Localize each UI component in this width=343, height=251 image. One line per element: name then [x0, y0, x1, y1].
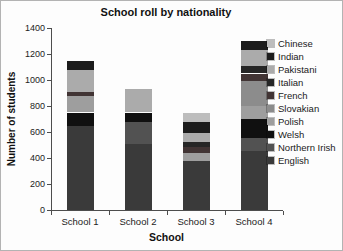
bar-segment — [241, 151, 268, 210]
legend-item: Polish — [267, 115, 336, 128]
legend-item: Chinese — [267, 37, 336, 50]
bar-segment — [67, 70, 94, 91]
legend-label: Polish — [278, 117, 304, 127]
y-tick-mark — [47, 132, 51, 133]
bar-segment — [67, 92, 94, 96]
bar-segment — [125, 89, 152, 112]
x-tick-mark — [109, 211, 110, 215]
legend-label: Italian — [278, 78, 303, 88]
legend-item: Italian — [267, 76, 336, 89]
legend-item: Northern Irish — [267, 141, 336, 154]
legend-swatch — [267, 79, 274, 86]
legend-item: English — [267, 154, 336, 167]
y-axis-line — [51, 28, 52, 211]
y-tick-label: 0 — [17, 206, 45, 215]
bar-segment — [67, 96, 94, 113]
x-category-label: School 1 — [51, 216, 109, 227]
x-category-label: School 2 — [109, 216, 167, 227]
y-tick-label: 400 — [17, 154, 45, 163]
legend-item: French — [267, 89, 336, 102]
y-tick-mark — [47, 106, 51, 107]
bar-segment — [241, 50, 268, 66]
bar-segment — [183, 133, 210, 142]
bar-segment — [125, 122, 152, 143]
bar-segment — [241, 81, 268, 106]
legend-swatch — [267, 53, 274, 60]
legend-swatch — [267, 66, 274, 73]
y-tick-label: 1400 — [17, 24, 45, 33]
x-tick-mark — [167, 211, 168, 215]
bar-segment — [183, 113, 210, 122]
legend-item: Welsh — [267, 128, 336, 141]
y-tick-mark — [47, 158, 51, 159]
bar-segment — [67, 113, 94, 126]
bar-segment — [183, 122, 210, 133]
bar-segment — [241, 41, 268, 50]
legend-swatch — [267, 92, 274, 99]
y-tick-label: 600 — [17, 128, 45, 137]
legend-item: Slovakian — [267, 102, 336, 115]
legend-swatch — [267, 131, 274, 138]
bar-segment — [67, 61, 94, 71]
legend-swatch — [267, 40, 274, 47]
bar-segment — [241, 119, 268, 138]
chart-title: School roll by nationality — [1, 6, 331, 18]
legend-label: Welsh — [278, 130, 304, 140]
y-tick-label: 1200 — [17, 50, 45, 59]
legend-swatch — [267, 157, 274, 164]
x-tick-mark — [283, 211, 284, 215]
y-tick-mark — [47, 28, 51, 29]
bar-segment — [183, 147, 210, 153]
y-tick-label: 800 — [17, 102, 45, 111]
y-tick-label: 200 — [17, 180, 45, 189]
chart-figure: School roll by nationality Number of stu… — [0, 0, 343, 251]
legend-label: French — [278, 91, 308, 101]
y-tick-label: 1000 — [17, 76, 45, 85]
x-axis-label: School — [51, 231, 282, 243]
bar-segment — [183, 142, 210, 147]
y-tick-mark — [47, 80, 51, 81]
y-axis-label: Number of students — [6, 72, 17, 166]
bar-segment — [241, 74, 268, 82]
bar-segment — [125, 113, 152, 123]
legend-swatch — [267, 105, 274, 112]
bar-segment — [183, 153, 210, 161]
y-tick-mark — [47, 54, 51, 55]
x-tick-mark — [51, 211, 52, 215]
bar-segment — [183, 161, 210, 210]
bar-segment — [241, 66, 268, 73]
legend-item: Indian — [267, 50, 336, 63]
legend-label: Pakistani — [278, 65, 317, 75]
legend-item: Pakistani — [267, 63, 336, 76]
bar-segment — [67, 126, 94, 211]
bar-segment — [241, 138, 268, 151]
legend-label: Slovakian — [278, 104, 319, 114]
legend: ChineseIndianPakistaniItalianFrenchSlova… — [267, 37, 336, 167]
x-category-label: School 3 — [167, 216, 225, 227]
legend-label: Northern Irish — [278, 143, 336, 153]
bar-segment — [125, 144, 152, 210]
y-tick-mark — [47, 184, 51, 185]
legend-swatch — [267, 144, 274, 151]
legend-swatch — [267, 118, 274, 125]
legend-label: Indian — [278, 52, 304, 62]
legend-label: English — [278, 156, 309, 166]
x-tick-mark — [225, 211, 226, 215]
bar-segment — [241, 106, 268, 119]
x-category-label: School 4 — [225, 216, 283, 227]
legend-label: Chinese — [278, 39, 313, 49]
